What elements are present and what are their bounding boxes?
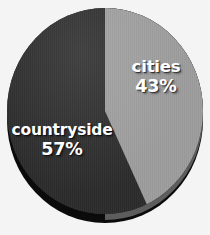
pie-top-face	[7, 8, 203, 214]
pie-label-cities-value: 43%	[117, 77, 195, 96]
pie-chart: cities 43% countryside 57%	[0, 0, 210, 235]
pie-label-countryside-value: 57%	[7, 140, 117, 159]
pie-label-countryside: countryside 57%	[7, 122, 117, 159]
pie-label-cities-name: cities	[132, 57, 181, 76]
pie-label-countryside-name: countryside	[11, 121, 112, 139]
pie-label-cities: cities 43%	[117, 58, 195, 96]
